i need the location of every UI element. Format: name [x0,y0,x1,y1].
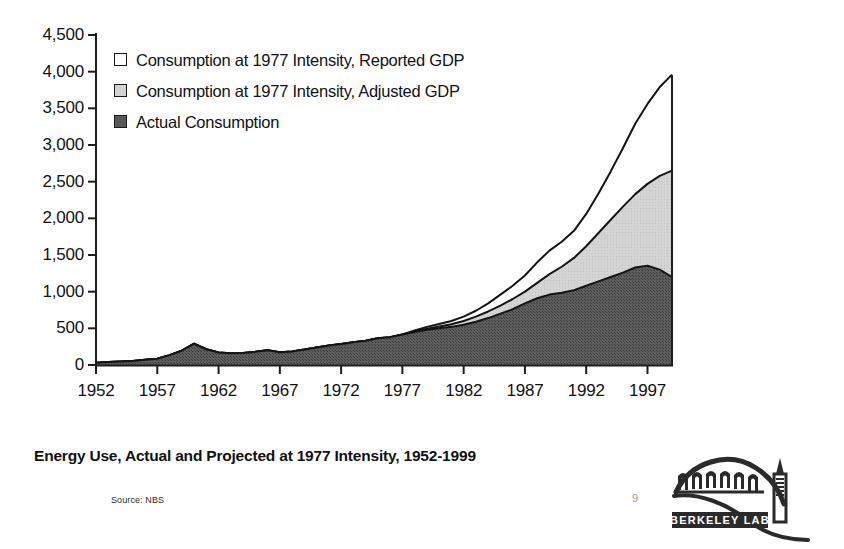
x-tick-label: 1962 [200,382,237,399]
area-chart-figure: 05001,0001,5002,0002,5003,0003,5004,0004… [0,0,700,420]
legend-label-actual-consumption: Actual Consumption [136,113,279,131]
chart-caption-title: Energy Use, Actual and Projected at 1977… [34,447,476,465]
x-tick-label: 1982 [445,382,482,399]
source-note: Source: NBS [111,495,164,505]
page-number: 9 [632,492,638,504]
logo-banner-text: BERKELEY LAB [670,514,770,526]
x-tick-label: 1992 [568,382,605,399]
legend-item-reported-gdp[interactable]: Consumption at 1977 Intensity, Reported … [114,44,544,75]
legend-label-adjusted-gdp: Consumption at 1977 Intensity, Adjusted … [136,82,460,100]
berkeley-lab-logo: BERKELEY LAB [668,452,840,544]
x-tick-label: 1987 [506,382,543,399]
legend-label-reported-gdp: Consumption at 1977 Intensity, Reported … [136,51,464,69]
chart-legend: Consumption at 1977 Intensity, Reported … [114,44,544,137]
legend-swatch-adjusted-gdp [114,84,127,97]
legend-item-actual-consumption[interactable]: Actual Consumption [114,106,544,137]
slide-canvas: 05001,0001,5002,0002,5003,0003,5004,0004… [0,0,844,549]
x-tick-label: 1997 [629,382,666,399]
legend-item-adjusted-gdp[interactable]: Consumption at 1977 Intensity, Adjusted … [114,75,544,106]
x-tick-label: 1957 [139,382,176,399]
legend-swatch-actual-consumption [114,115,127,128]
x-tick-label: 1967 [261,382,298,399]
x-tick-label: 1972 [323,382,360,399]
legend-swatch-reported-gdp [114,53,127,66]
x-tick-label: 1977 [384,382,421,399]
x-tick-label: 1952 [77,382,114,399]
logo-banner: BERKELEY LAB [670,512,770,528]
